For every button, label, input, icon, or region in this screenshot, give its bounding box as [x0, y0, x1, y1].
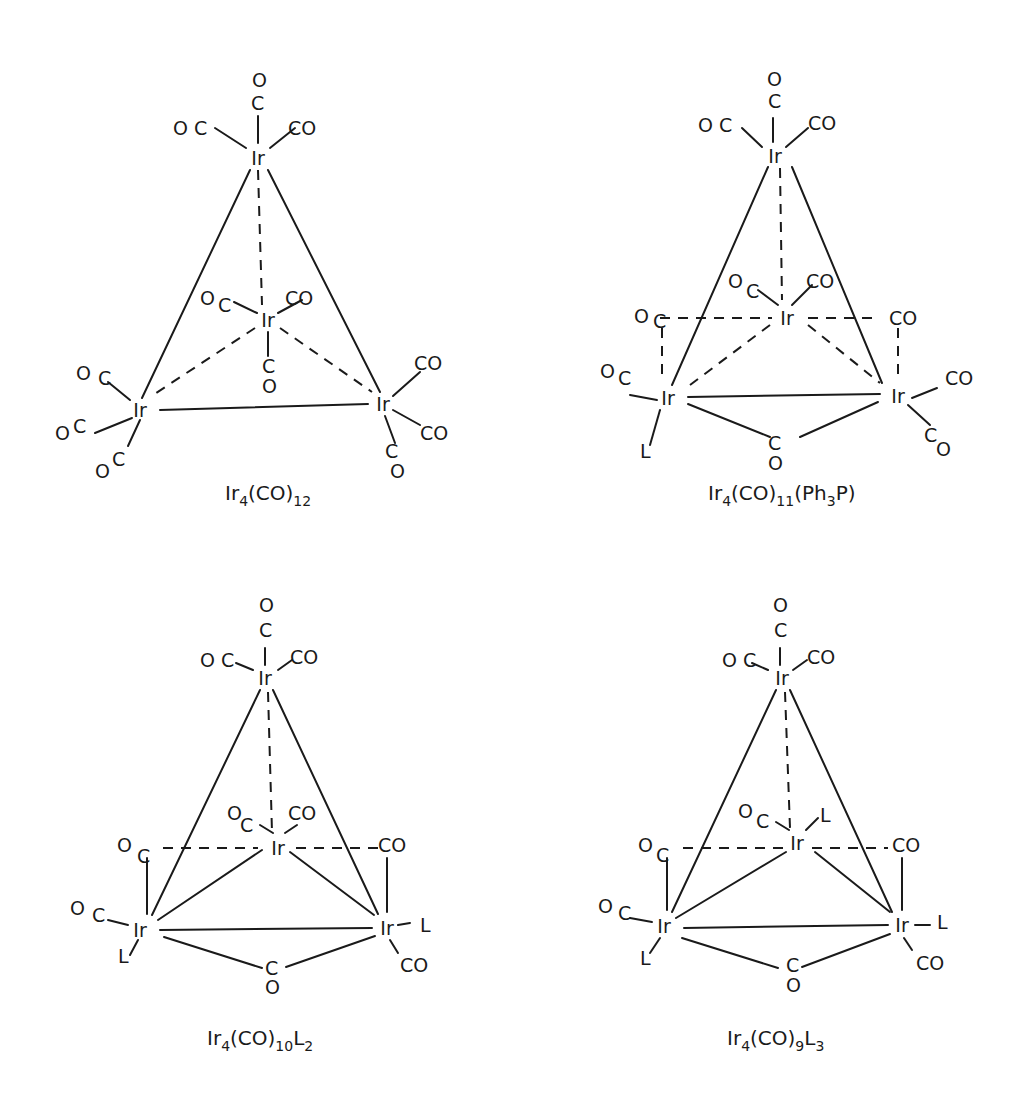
- ligand-label: C: [618, 902, 631, 924]
- page-background: [0, 0, 1016, 1098]
- ligand-label: C: [92, 904, 105, 926]
- ligand-label: L: [640, 440, 651, 462]
- ligand-label: CO: [288, 117, 316, 139]
- ligand-label: O: [76, 362, 91, 384]
- ligand-label: C: [786, 954, 799, 976]
- ligand-label: O: [262, 375, 277, 397]
- ligand-label: O: [936, 438, 951, 460]
- ligand-label: O: [252, 69, 267, 91]
- ligand-label: CO: [414, 352, 442, 374]
- ligand-label: C: [98, 367, 111, 389]
- ligand-label: CO: [378, 834, 406, 856]
- ligand-label: O C: [698, 114, 732, 136]
- ligand-label: C: [240, 814, 253, 836]
- ligand-label: O: [773, 594, 788, 616]
- ligand-label: C: [653, 310, 666, 332]
- ligand-label: O: [390, 460, 405, 482]
- iridium-atom-label: Ir: [780, 307, 794, 329]
- ligand-label: C: [73, 415, 86, 437]
- ligand-label: CO: [420, 422, 448, 444]
- ligand-label: O: [786, 974, 801, 996]
- ligand-label: O: [55, 422, 70, 444]
- ligand-label: L: [937, 911, 948, 933]
- ligand-label: C: [259, 619, 272, 641]
- ligand-label: C: [251, 92, 264, 114]
- ligand-label: L: [640, 947, 651, 969]
- ligand-label: O: [600, 360, 615, 382]
- ligand-label: O: [634, 305, 649, 327]
- iridium-atom-label: Ir: [380, 917, 394, 939]
- iridium-atom-label: Ir: [376, 393, 390, 415]
- ligand-label: CO: [290, 646, 318, 668]
- ligand-label: O: [767, 68, 782, 90]
- ligand-label: O: [70, 897, 85, 919]
- ligand-label: C: [112, 448, 125, 470]
- ligand-label: O C: [722, 649, 756, 671]
- ligand-label: CO: [892, 834, 920, 856]
- ligand-label: C: [385, 440, 398, 462]
- ligand-label: CO: [806, 270, 834, 292]
- ligand-label: CO: [945, 367, 973, 389]
- iridium-atom-label: Ir: [661, 387, 675, 409]
- iridium-atom-label: Ir: [657, 915, 671, 937]
- ligand-label: C: [262, 355, 275, 377]
- iridium-atom-label: Ir: [133, 399, 147, 421]
- ligand-label: L: [420, 914, 431, 936]
- iridium-atom-label: Ir: [891, 385, 905, 407]
- ligand-label: CO: [285, 287, 313, 309]
- ligand-label: CO: [808, 112, 836, 134]
- ligand-label: C: [218, 294, 231, 316]
- ligand-label: C: [756, 810, 769, 832]
- ligand-label: C: [768, 432, 781, 454]
- ligand-label: C: [656, 844, 669, 866]
- ligand-label: O: [117, 834, 132, 856]
- ligand-label: O: [738, 800, 753, 822]
- iridium-atom-label: Ir: [768, 145, 782, 167]
- ligand-label: O: [265, 976, 280, 998]
- ligand-label: L: [118, 945, 129, 967]
- figure-canvas: IrIrIrIrOCO CCOOCCOCOOCOCOCCOCOCOIr4(CO)…: [0, 0, 1016, 1098]
- iridium-atom-label: Ir: [790, 832, 804, 854]
- ligand-label: C: [746, 280, 759, 302]
- iridium-atom-label: Ir: [775, 667, 789, 689]
- ligand-label: CO: [916, 952, 944, 974]
- iridium-atom-label: Ir: [133, 919, 147, 941]
- iridium-atom-label: Ir: [895, 914, 909, 936]
- ligand-label: CO: [889, 307, 917, 329]
- ligand-label: O: [95, 460, 110, 482]
- ligand-label: CO: [400, 954, 428, 976]
- ligand-label: L: [820, 804, 831, 826]
- ligand-label: CO: [288, 802, 316, 824]
- ligand-label: C: [768, 90, 781, 112]
- iridium-atom-label: Ir: [251, 147, 265, 169]
- iridium-atom-label: Ir: [271, 837, 285, 859]
- ligand-label: O: [200, 287, 215, 309]
- ligand-label: O C: [173, 117, 207, 139]
- ligand-label: O: [259, 594, 274, 616]
- iridium-atom-label: Ir: [258, 667, 272, 689]
- ligand-label: O C: [200, 649, 234, 671]
- ligand-label: C: [774, 619, 787, 641]
- ligand-label: C: [618, 367, 631, 389]
- ligand-label: O: [768, 452, 783, 474]
- ligand-label: C: [137, 845, 150, 867]
- ligand-label: O: [638, 834, 653, 856]
- iridium-atom-label: Ir: [261, 309, 275, 331]
- ligand-label: O: [728, 270, 743, 292]
- ligand-label: CO: [807, 646, 835, 668]
- ligand-label: O: [598, 895, 613, 917]
